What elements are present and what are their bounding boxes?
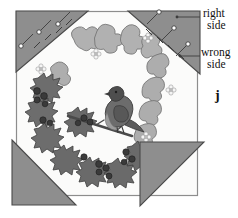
figure-canvas: right side wrong side j [0,0,238,218]
callout-wrong-side-line2: side [207,59,226,71]
bird-eye [115,91,117,93]
wreath-diagram-illustration [0,0,238,218]
callout-right-side-line2: side [207,20,226,32]
figure-step-label: j [215,90,220,102]
callout-wrong-side-line1: wrong [201,47,230,59]
bird-head [109,86,124,101]
callout-right-side-line1: right [203,8,225,20]
